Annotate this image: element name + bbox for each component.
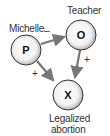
arrow-p-to-x: [37, 61, 53, 80]
label-michelle: Michelle: [9, 23, 44, 34]
node-x-letter: X: [64, 89, 72, 101]
node-p: P: [11, 35, 41, 65]
arrow-p-to-o: [41, 37, 64, 44]
label-legalized: Legalized: [49, 113, 90, 124]
node-o: O: [66, 20, 96, 50]
node-o-letter: O: [77, 29, 86, 41]
node-p-letter: P: [22, 44, 29, 56]
sign-p-to-o: –: [44, 26, 50, 36]
node-x: X: [53, 80, 83, 110]
sign-o-to-x: +: [84, 55, 90, 65]
sign-p-to-x: +: [32, 69, 38, 79]
label-teacher: Teacher: [67, 5, 101, 16]
arrow-o-to-x: [75, 50, 80, 77]
label-abortion: abortion: [51, 124, 86, 135]
